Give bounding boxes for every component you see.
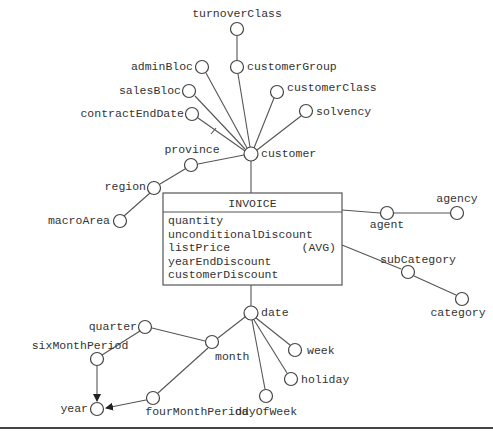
edge-customer-adminbloc [206, 73, 247, 148]
node-solvency[interactable] [300, 105, 313, 118]
edge-invoice-agent [342, 210, 380, 213]
label-quarter: quarter [89, 320, 137, 333]
label-date: date [261, 306, 289, 319]
label-contractenddate: contractEndDate [80, 107, 184, 120]
node-dayofweek[interactable] [260, 390, 273, 403]
label-solvency: solvency [316, 105, 371, 118]
node-adminbloc[interactable] [196, 61, 209, 74]
node-quarter[interactable] [139, 321, 152, 334]
node-customerclass[interactable] [271, 86, 284, 99]
fact-title: INVOICE [228, 197, 276, 210]
node-province[interactable] [185, 159, 198, 172]
label-sixmonthperiod: sixMonthPeriod [32, 339, 129, 352]
measure-quantity: quantity [168, 214, 223, 227]
label-salesbloc: salesBloc [119, 84, 181, 97]
label-agent: agent [370, 218, 405, 231]
label-category: category [430, 306, 485, 319]
label-macroarea: macroArea [48, 214, 110, 227]
edge-date-holiday [254, 320, 287, 373]
label-customer: customer [261, 147, 316, 160]
edge-customer-salesbloc [195, 96, 245, 149]
label-holiday: holiday [301, 373, 349, 386]
node-salesbloc[interactable] [183, 85, 196, 98]
node-contractenddate[interactable] [186, 108, 199, 121]
measure-list-price-aggregation: (AVG) [301, 241, 336, 254]
label-province: province [164, 143, 219, 156]
label-turnoverclass: turnoverClass [192, 7, 282, 20]
edge-province-region [160, 169, 185, 184]
label-week: week [307, 344, 335, 357]
label-subcategory: subCategory [380, 253, 456, 266]
dimensional-fact-model-diagram: INVOICE quantity unconditionalDiscount l… [0, 0, 493, 432]
label-customerclass: customerClass [287, 81, 377, 94]
edge-month-fourmonthperiod [158, 348, 208, 393]
label-agency: agency [436, 192, 478, 205]
label-region: region [105, 180, 146, 193]
node-holiday[interactable] [285, 373, 298, 386]
label-adminbloc: adminBloc [131, 60, 193, 73]
edge-customer-solvency [257, 116, 301, 150]
edge-subcategory-category [414, 276, 456, 295]
node-week[interactable] [289, 344, 302, 357]
node-turnoverclass[interactable] [231, 23, 244, 36]
edge-month-quarter [152, 328, 205, 341]
node-customergroup[interactable] [231, 61, 244, 74]
label-fourmonthperiod: fourMonthPeriod [145, 405, 249, 418]
label-customergroup: customerGroup [247, 60, 337, 73]
edge-customer-customergroup [238, 74, 250, 147]
label-year: year [60, 402, 88, 415]
edge-date-month [218, 317, 245, 338]
edge-customer-customerclass [254, 98, 274, 148]
node-sixmonthperiod[interactable] [91, 353, 104, 366]
node-month[interactable] [206, 336, 219, 349]
node-date[interactable] [244, 306, 258, 320]
node-agency[interactable] [451, 207, 464, 220]
label-month: month [215, 350, 250, 363]
node-macroarea[interactable] [114, 215, 127, 228]
node-customer[interactable] [244, 147, 258, 161]
measure-customer-discount: customerDiscount [168, 268, 278, 281]
node-fourmonthperiod[interactable] [147, 392, 160, 405]
node-region[interactable] [148, 182, 161, 195]
edge-date-dayofweek [252, 320, 265, 389]
node-category[interactable] [456, 293, 469, 306]
edge-customer-province [198, 155, 244, 164]
measure-year-end-discount: yearEndDiscount [168, 255, 272, 268]
measure-unconditional-discount: unconditionalDiscount [168, 228, 313, 241]
node-subcategory[interactable] [402, 266, 415, 279]
fact-invoice[interactable]: INVOICE quantity unconditionalDiscount l… [163, 193, 342, 285]
edge-region-macroarea [124, 193, 150, 216]
measure-list-price: listPrice [168, 241, 230, 254]
node-year[interactable] [91, 403, 104, 416]
edge-fourmonthperiod-year [106, 400, 146, 408]
